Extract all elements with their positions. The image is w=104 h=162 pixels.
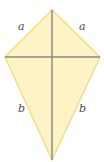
label-lower-right-side: b	[79, 102, 86, 115]
kite-diagram: a a b b	[0, 0, 104, 162]
label-upper-left-side: a	[18, 20, 25, 33]
label-upper-right-side: a	[79, 20, 86, 33]
label-lower-left-side: b	[18, 102, 25, 115]
